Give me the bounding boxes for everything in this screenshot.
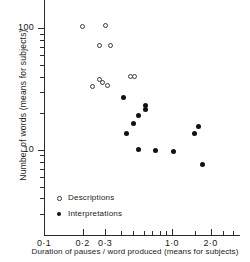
y-tick-major (38, 28, 44, 29)
y-tick-minor (40, 34, 44, 35)
data-point-interpretation (143, 107, 148, 112)
data-point-description (108, 43, 113, 48)
x-tick-major (105, 229, 106, 235)
x-tick-major (83, 229, 84, 235)
x-tick-minor (152, 231, 153, 235)
x-tick-minor (195, 231, 196, 235)
x-tick-major (211, 229, 212, 235)
data-point-interpretation (124, 131, 129, 136)
legend-item-interpretations: Interpretations (57, 209, 122, 218)
x-tick-major (44, 229, 45, 235)
x-tick-minor (144, 231, 145, 235)
data-point-interpretation (136, 147, 141, 152)
x-axis-title: Duration of pauses / word produced (mean… (24, 247, 246, 256)
y-axis-title: Number of words (means for subjects) (18, 20, 28, 190)
x-tick-minor (133, 231, 134, 235)
open-circle-icon (57, 196, 62, 201)
y-tick-minor (40, 113, 44, 114)
data-point-description (103, 23, 108, 28)
data-point-interpretation (153, 148, 158, 153)
data-point-description (80, 24, 85, 29)
y-tick-minor (40, 55, 44, 56)
y-tick-minor (40, 47, 44, 48)
y-tick-minor (40, 162, 44, 163)
x-tick-minor (166, 231, 167, 235)
legend-item-descriptions: Descriptions (57, 193, 114, 202)
y-tick-major (38, 150, 44, 151)
y-tick-minor (40, 92, 44, 93)
data-point-description (100, 80, 105, 85)
filled-circle-icon (57, 212, 61, 216)
data-point-interpretation (171, 149, 176, 154)
y-axis-line (44, 0, 45, 235)
data-point-description (132, 74, 137, 79)
data-point-description (97, 43, 102, 48)
data-point-interpretation (200, 162, 205, 167)
y-tick-minor (40, 169, 44, 170)
data-point-interpretation (131, 121, 136, 126)
x-axis-line (44, 235, 240, 236)
data-point-description (105, 83, 110, 88)
y-tick-minor (40, 198, 44, 199)
data-point-interpretation (196, 124, 201, 129)
y-tick-minor (40, 155, 44, 156)
x-tick-minor (121, 231, 122, 235)
legend-label: Interpretations (68, 209, 122, 218)
x-tick-major (172, 229, 173, 235)
data-point-interpretation (192, 131, 197, 136)
y-tick-minor (40, 40, 44, 41)
y-tick-minor (40, 214, 44, 215)
y-tick-minor (40, 77, 44, 78)
x-tick-minor (233, 231, 234, 235)
scatter-plot-figure: 10010 0·10·20·31·02·0 Number of words (m… (0, 0, 250, 262)
y-tick-minor (40, 177, 44, 178)
x-tick-minor (223, 231, 224, 235)
y-tick-minor (40, 187, 44, 188)
y-tick-minor (40, 65, 44, 66)
data-point-description (90, 84, 95, 89)
legend-label: Descriptions (68, 193, 114, 202)
data-point-interpretation (136, 113, 141, 118)
x-tick-minor (160, 231, 161, 235)
data-point-interpretation (121, 95, 126, 100)
